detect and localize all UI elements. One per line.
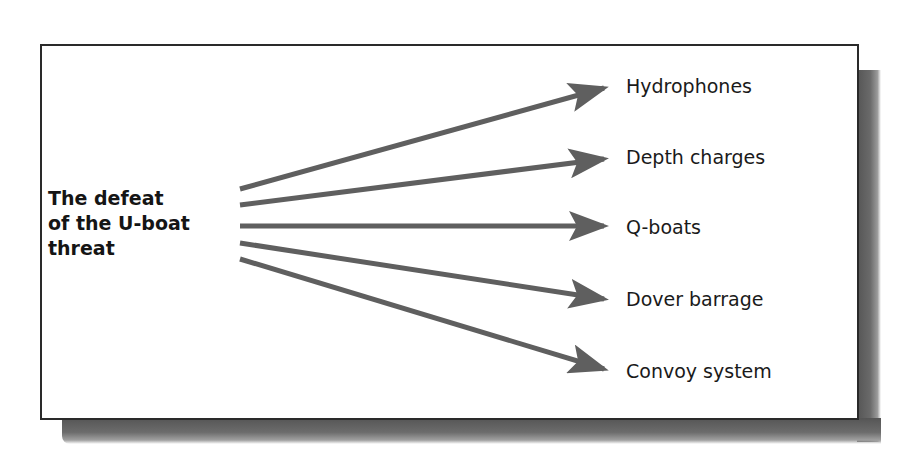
branch-label-convoy-system: Convoy system [626,360,772,382]
branch-label-dover-barrage: Dover barrage [626,288,763,310]
arrow-to-dover-barrage [240,243,604,299]
branch-label-hydrophones: Hydrophones [626,75,752,97]
branch-label-depth-charges: Depth charges [626,146,765,168]
arrow-to-hydrophones [240,88,604,189]
arrow-to-depth-charges [240,159,604,205]
arrows-layer [0,0,909,456]
branch-label-q-boats: Q-boats [626,216,701,238]
arrow-to-convoy-system [240,259,604,369]
